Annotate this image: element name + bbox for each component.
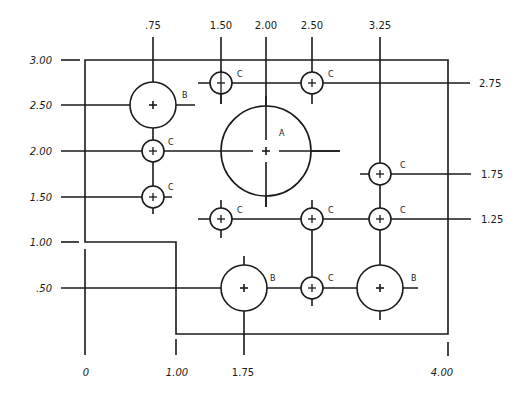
dim-label-left-050: .50 (36, 283, 52, 294)
hole-tag-b-2: B (270, 274, 276, 283)
hole-tag-c-5: C (400, 161, 406, 170)
dim-label-left-100: 1.00 (30, 237, 52, 248)
hole-tag-b-1: B (182, 91, 188, 100)
dim-label-right-175: 1.75 (481, 169, 503, 180)
hole-tag-c-2: C (168, 183, 174, 192)
dim-label-top-250: 2.50 (301, 20, 323, 31)
hole-tag-b-3: B (411, 274, 417, 283)
hole-tag-c-3: C (237, 70, 243, 79)
dim-label-left-150: 1.50 (30, 192, 52, 203)
hole-layout-drawing: .75 1.50 2.00 2.50 3.25 3.00 2.50 2.00 1… (0, 0, 527, 396)
hole-tag-c-7: C (328, 206, 334, 215)
hole-tag-c-6: C (237, 206, 243, 215)
dim-label-top-075: .75 (145, 20, 161, 31)
dim-label-top-200: 2.00 (255, 20, 277, 31)
dim-label-top-150: 1.50 (210, 20, 232, 31)
dim-label-top-325: 3.25 (369, 20, 391, 31)
hole-tag-c-9: C (328, 274, 334, 283)
dim-label-left-250: 2.50 (30, 100, 52, 111)
dim-label-bottom-400: 4.00 (431, 367, 453, 378)
dim-label-bottom-100: 1.00 (166, 367, 188, 378)
dim-label-bottom-175: 1.75 (232, 367, 254, 378)
dim-label-right-275: 2.75 (479, 78, 501, 89)
dim-label-right-125: 1.25 (481, 214, 503, 225)
hole-tag-a: A (279, 129, 285, 138)
hole-tag-c-4: C (328, 70, 334, 79)
dim-label-bottom-0: 0 (83, 367, 89, 378)
dim-label-left-200: 2.00 (30, 146, 52, 157)
hole-tag-c-8: C (400, 206, 406, 215)
dim-label-left-300: 3.00 (30, 55, 52, 66)
hole-tag-c-1: C (168, 138, 174, 147)
